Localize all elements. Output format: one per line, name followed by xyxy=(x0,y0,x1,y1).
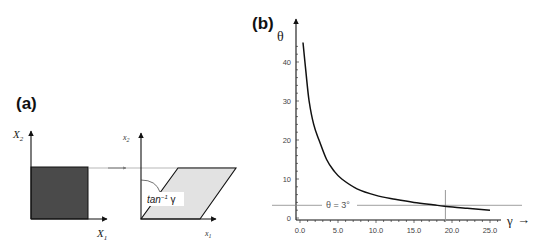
x-tick-label: 20.0 xyxy=(445,226,460,235)
chart-annotations: θ = 3° xyxy=(272,190,522,222)
figure: (a) X2 X1 tan−1 γ x2 x xyxy=(0,0,537,251)
theta-gamma-curve xyxy=(303,43,490,211)
undeformed-square-diagram: X2 X1 xyxy=(12,128,107,242)
y-axis-label: θ xyxy=(277,29,284,44)
panel-a-label: (a) xyxy=(16,94,37,113)
left-x-axis-label: X1 xyxy=(96,227,107,242)
sheared-parallelogram-diagram: tan−1 γ x2 x1 xyxy=(122,133,236,239)
y-tick-label: 30 xyxy=(283,97,291,106)
panel-b-label: (b) xyxy=(252,14,274,33)
data-series xyxy=(303,43,490,211)
figure-canvas: (a) X2 X1 tan−1 γ x2 x xyxy=(0,0,537,251)
x-axis-label: γ xyxy=(506,213,513,228)
undeformed-square xyxy=(31,167,88,219)
y-tick-label: 20 xyxy=(283,136,291,145)
x-tick-label: 25.0 xyxy=(483,226,498,235)
x-tick-label: 10.0 xyxy=(369,226,384,235)
x-tick-label: 0.0 xyxy=(295,226,305,235)
x-tick-label: 15.0 xyxy=(407,226,422,235)
x-ticks: 0.05.010.015.020.025.0 xyxy=(295,220,498,235)
shear-angle-arc xyxy=(141,180,160,192)
panel-b-chart: (b) θ γ → 010203040 0.05.010.015.020.025… xyxy=(252,14,530,235)
y-tick-label: 40 xyxy=(283,58,291,67)
threshold-annotation: θ = 3° xyxy=(326,200,350,210)
right-x-axis-label: x1 xyxy=(204,229,212,239)
left-y-axis-label: X2 xyxy=(12,128,24,143)
x-axis-arrow: → xyxy=(517,212,530,227)
panel-a: (a) X2 X1 tan−1 γ x2 x xyxy=(12,94,236,242)
x-tick-label: 5.0 xyxy=(333,226,343,235)
y-tick-label: 10 xyxy=(283,175,291,184)
y-tick-label: 0 xyxy=(287,214,291,223)
right-y-axis-label: x2 xyxy=(122,133,130,143)
